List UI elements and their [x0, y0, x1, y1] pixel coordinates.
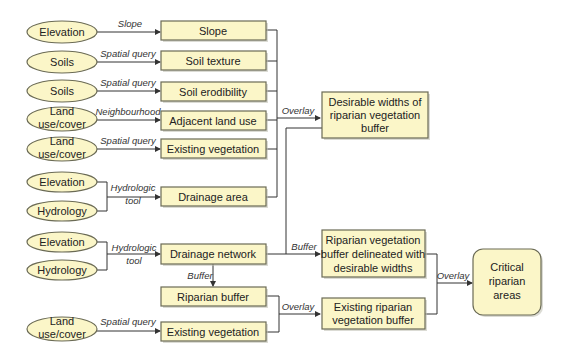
edge-label-buffer: Buffer — [187, 270, 213, 281]
process-drainage-area: Drainage area — [161, 187, 268, 208]
process-soil-erodibility: Soil erodibility — [161, 82, 268, 103]
svg-text:areas: areas — [493, 289, 521, 301]
svg-text:Slope: Slope — [199, 25, 227, 37]
input-elevation: Elevation — [27, 172, 97, 192]
svg-text:use/cover: use/cover — [38, 118, 86, 130]
input-soils: Soils — [27, 80, 97, 102]
critical-riparian-areas-box: Critical riparian areas — [473, 249, 543, 317]
svg-text:Riparian buffer: Riparian buffer — [177, 291, 249, 303]
connectors — [97, 30, 472, 332]
edge-label-spatial-query: Spatial query — [100, 48, 157, 59]
edge-labels: Slope Spatial query Spatial query Neighb… — [96, 18, 471, 327]
process-existing-vegetation: Existing vegetation — [161, 322, 268, 343]
edge-label-tool: tool — [125, 195, 141, 206]
svg-text:Land: Land — [50, 105, 74, 117]
svg-text:Soil texture: Soil texture — [185, 55, 240, 67]
input-elevation: Elevation — [27, 232, 97, 252]
edge-label-buffer: Buffer — [291, 241, 317, 252]
input-land-use-cover: Land use/cover — [27, 315, 97, 341]
edge-label-overlay: Overlay — [437, 270, 471, 281]
edge-label-slope: Slope — [118, 18, 142, 29]
edge-label-hydrologic: Hydrologic — [112, 242, 157, 253]
svg-text:Adjacent land use: Adjacent land use — [169, 115, 256, 127]
edge-label-spatial-query: Spatial query — [100, 316, 157, 327]
edge-label-hydrologic: Hydrologic — [111, 182, 156, 193]
edge-label-spatial-query: Spatial query — [100, 77, 157, 88]
input-hydrology: Hydrology — [27, 260, 97, 280]
svg-text:riparian vegetation: riparian vegetation — [330, 109, 421, 121]
svg-text:Riparian vegetation: Riparian vegetation — [326, 234, 421, 246]
process-adjacent-land-use: Adjacent land use — [161, 111, 268, 132]
svg-text:Soils: Soils — [50, 56, 74, 68]
process-soil-texture: Soil texture — [161, 51, 268, 72]
edge-label-tool: tool — [126, 255, 142, 266]
svg-text:riparian: riparian — [489, 275, 526, 287]
svg-text:Existing vegetation: Existing vegetation — [167, 143, 259, 155]
svg-text:Drainage network: Drainage network — [170, 248, 257, 260]
svg-text:buffer: buffer — [361, 122, 389, 134]
svg-text:Hydrology: Hydrology — [37, 205, 87, 217]
input-land-use-cover: Land use/cover — [27, 135, 97, 161]
svg-text:desirable widths: desirable widths — [334, 262, 413, 274]
svg-text:buffer delineated with: buffer delineated with — [321, 248, 425, 260]
process-slope: Slope — [161, 21, 268, 42]
svg-text:Desirable widths of: Desirable widths of — [329, 96, 423, 108]
svg-text:Soil erodibility: Soil erodibility — [179, 86, 247, 98]
desirable-widths-box: Desirable widths of riparian vegetation … — [322, 92, 430, 140]
svg-text:Land: Land — [50, 135, 74, 147]
input-layers: Elevation Soils Soils Land use/cover Lan… — [27, 21, 97, 341]
input-elevation: Elevation — [27, 21, 97, 43]
svg-text:Hydrology: Hydrology — [37, 264, 87, 276]
input-land-use-cover: Land use/cover — [27, 105, 97, 131]
process-existing-vegetation: Existing vegetation — [161, 139, 268, 160]
edge-label-overlay: Overlay — [282, 301, 316, 312]
intermediate-boxes: Desirable widths of riparian vegetation … — [321, 92, 430, 331]
existing-riparian-box: Existing riparian vegetation buffer — [322, 298, 427, 331]
svg-text:Soils: Soils — [50, 85, 74, 97]
svg-text:use/cover: use/cover — [38, 148, 86, 160]
process-drainage-network: Drainage network — [161, 244, 268, 266]
svg-text:use/cover: use/cover — [38, 328, 86, 340]
process-riparian-buffer: Riparian buffer — [161, 287, 268, 308]
riparian-workflow-diagram: Slope Spatial query Spatial query Neighb… — [0, 0, 563, 360]
riparian-delineated-box: Riparian vegetation buffer delineated wi… — [321, 230, 427, 279]
svg-text:vegetation buffer: vegetation buffer — [332, 314, 414, 326]
svg-text:Existing vegetation: Existing vegetation — [167, 326, 259, 338]
process-boxes: Slope Soil texture Soil erodibility Adja… — [161, 21, 268, 343]
svg-text:Critical: Critical — [490, 261, 524, 273]
edge-label-overlay: Overlay — [282, 105, 316, 116]
input-hydrology: Hydrology — [27, 201, 97, 221]
svg-text:Elevation: Elevation — [39, 26, 84, 38]
svg-text:Elevation: Elevation — [39, 176, 84, 188]
edge-label-spatial-query: Spatial query — [100, 135, 157, 146]
svg-text:Existing riparian: Existing riparian — [334, 301, 412, 313]
edge-label-neighbourhood: Neighbourhood — [96, 106, 162, 117]
input-soils: Soils — [27, 51, 97, 73]
svg-text:Elevation: Elevation — [39, 236, 84, 248]
svg-text:Land: Land — [50, 315, 74, 327]
svg-text:Drainage area: Drainage area — [178, 191, 249, 203]
